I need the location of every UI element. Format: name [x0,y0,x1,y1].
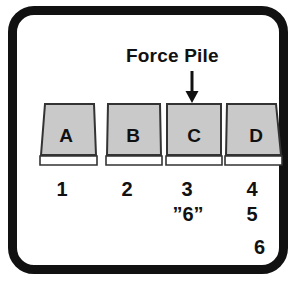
number-five-label: 5 [232,203,272,226]
figure-canvas: Force Pile A B C [0,0,304,284]
block-a-shape [38,103,98,168]
block-a: A [38,103,98,168]
corner-number: 6 [254,236,265,259]
block-b-shape [104,103,164,168]
block-d-shape [224,103,284,168]
block-number-2: 2 [107,178,147,201]
block-c: C [164,103,224,168]
block-d: D [224,103,284,168]
block-c-shape [164,103,224,168]
block-number-3: 3 [167,178,207,201]
block-b: B [104,103,164,168]
block-number-1: 1 [42,178,82,201]
quoted-six-label: ”6” [162,203,214,226]
force-pile-label: Force Pile [126,45,246,67]
down-arrow-icon [182,71,202,103]
block-number-4: 4 [232,178,272,201]
